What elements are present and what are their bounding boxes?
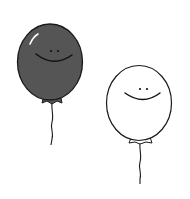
left-eye [139, 88, 141, 90]
right-eye [146, 88, 148, 90]
balloon-body [18, 24, 83, 100]
right-eye [57, 50, 59, 52]
balloons-illustration [0, 0, 190, 199]
dark-balloon [18, 24, 83, 145]
balloon-string [139, 142, 140, 184]
balloon-string [51, 102, 53, 145]
white-balloon [107, 66, 172, 185]
left-eye [50, 50, 52, 52]
balloon-body [107, 66, 172, 141]
